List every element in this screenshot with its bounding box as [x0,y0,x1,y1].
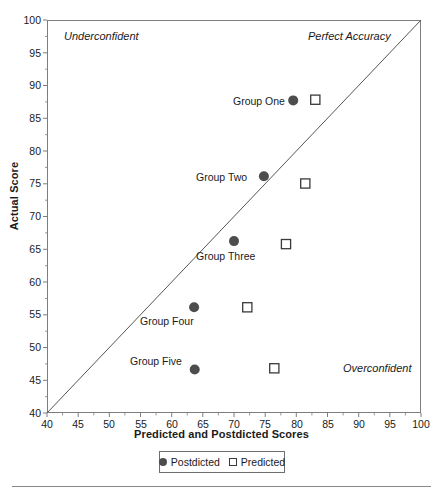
plot-area-frame [47,20,421,413]
point-label-group-four: Group Four [140,315,194,327]
point-label-group-one: Group One [233,95,285,107]
x-axis-major-ticks [47,413,421,417]
point-label-group-three: Group Three [196,250,255,262]
legend-label-postdicted: Postdicted [171,456,220,468]
y-axis-title: Actual Score [8,146,20,246]
point-label-group-two: Group Two [196,171,247,183]
annotation-perfect-accuracy: Perfect Accuracy [308,30,391,42]
legend-entry-predicted: Predicted [229,456,285,468]
y-tick-label-50: 50 [15,342,41,353]
scatter-chart-figure: 100 95 90 85 80 75 70 65 60 55 50 45 40 … [0,0,443,497]
y-tick-label-60: 60 [15,277,41,288]
y-tick-label-40: 40 [15,408,41,419]
y-tick-label-100: 100 [15,15,41,26]
filled-circle-icon [159,458,167,466]
y-tick-label-90: 90 [15,80,41,91]
x-axis-title: Predicted and Postdicted Scores [0,428,443,440]
y-tick-label-55: 55 [15,309,41,320]
y-tick-label-95: 95 [15,48,41,59]
point-label-group-five: Group Five [130,355,182,367]
annotation-underconfident: Underconfident [64,30,139,42]
open-square-icon [229,458,237,466]
y-tick-label-85: 85 [15,113,41,124]
y-tick-label-45: 45 [15,375,41,386]
x-axis-minor-ticks [63,413,406,416]
legend-label-predicted: Predicted [241,456,285,468]
legend-entry-postdicted: Postdicted [159,456,220,468]
figure-bottom-rule [12,486,431,487]
annotation-overconfident: Overconfident [343,362,411,374]
chart-legend: Postdicted Predicted [159,451,285,473]
